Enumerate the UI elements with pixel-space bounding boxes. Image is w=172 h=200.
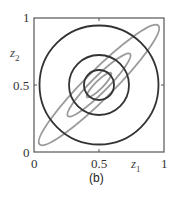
axis-ticks [34, 18, 164, 152]
circle-contour-outer [40, 26, 159, 145]
y-tick-1: 1 [23, 11, 30, 24]
y-tick-0-5: 0.5 [13, 79, 29, 92]
axes-frame [34, 18, 164, 152]
figure-caption: (b) [89, 172, 104, 184]
y-axis-label: z2 [10, 46, 20, 63]
contour-plot [0, 0, 172, 200]
figure-panel-b: 1 0.5 0 0 0.5 1 z2 z1 (b) [0, 0, 172, 200]
x-tick-1: 1 [161, 157, 168, 170]
circle-contours [40, 26, 159, 145]
circle-contour-middle [69, 55, 129, 115]
y-axis-label-sub: 2 [15, 53, 20, 63]
y-tick-0: 0 [23, 146, 30, 159]
ellipse-contour-middle [62, 48, 136, 122]
ellipse-contours [30, 16, 169, 155]
ellipse-contour-outer [30, 16, 169, 155]
x-axis-label: z1 [131, 157, 141, 174]
x-tick-0-5: 0.5 [91, 157, 107, 170]
x-tick-0: 0 [31, 157, 38, 170]
x-axis-label-sub: 1 [136, 164, 141, 174]
